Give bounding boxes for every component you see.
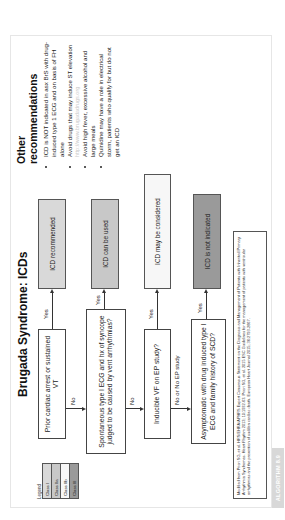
recommendations-list: ICD is NOT indicated in asx BrS with dru… — [42, 39, 120, 164]
citation: Modified from Priori SG, et al. HRS/EHRA… — [233, 231, 267, 499]
connector-yes-1 — [52, 293, 53, 329]
arrow-down-icon — [140, 408, 144, 412]
legend-class-iib: Class IIb — [61, 463, 70, 499]
decision-prior-arrest: Prior cardiac arrest or sustained VT — [38, 329, 66, 439]
decision-inducible-vf: Inducible VF on EP study? — [144, 329, 171, 439]
algorithm-figure: Brugada Syndrome: ICDs Legend Class I Cl… — [10, 35, 272, 508]
label-yes-3: Yes — [148, 309, 154, 319]
recommendation-item: Quinidine may have a role in electrical … — [97, 39, 121, 157]
legend: Legend Class I Class IIa Class IIb Class… — [37, 463, 79, 499]
arrow-right-icon — [102, 289, 106, 293]
figure-title: Brugada Syndrome: ICDs — [16, 252, 30, 397]
watermark-link[interactable]: http://www.brugadadrugs.org — [74, 39, 81, 157]
label-yes-4: Yes — [197, 303, 203, 313]
label-no-2: No — [129, 397, 135, 405]
connector-no-2 — [126, 408, 140, 409]
arrow-down-icon — [82, 408, 86, 412]
connector-no-1 — [66, 408, 82, 409]
recommendation-item: ICD is NOT indicated in asx BrS with dru… — [42, 39, 66, 157]
legend-class-iii: Class III — [70, 463, 79, 499]
arrow-right-icon — [204, 289, 208, 293]
label-yes-2: Yes — [95, 295, 101, 305]
algorithm-tag-label: ALGORITHM 8.9 — [275, 455, 281, 501]
legend-class-i: Class I — [42, 463, 52, 499]
connector-yes-3 — [157, 293, 158, 329]
label-no-or-no-ep: No or No EP study — [174, 355, 180, 405]
other-recommendations: Other recommendations ICD is NOT indicat… — [16, 39, 121, 164]
arrow-down-icon — [187, 408, 191, 412]
outcome-icd-recommended: ICD recommended — [38, 199, 66, 289]
recommendations-title-2: recommendations — [28, 39, 40, 164]
outcome-icd-can-be-used: ICD can be used — [91, 199, 119, 289]
recommendation-item: Avoid high fever, excessive alcohol and … — [81, 39, 97, 157]
decision-asymptomatic: Asymptomatic with drug induced type I EC… — [191, 319, 226, 444]
legend-class-iia: Class IIa — [52, 463, 61, 499]
outcome-icd-may-be-considered: ICD may be considered — [144, 174, 171, 289]
decision-spontaneous-type1: Spontaneous type I ECG and hx of syncope… — [86, 309, 126, 454]
outcome-icd-not-indicated: ICD is not indicated — [193, 194, 221, 289]
connector-yes-4 — [206, 293, 207, 319]
connector-no-3 — [171, 408, 187, 409]
arrow-right-icon — [155, 289, 159, 293]
label-no-1: No — [70, 397, 76, 405]
connector-yes-2 — [104, 293, 105, 309]
label-yes-1: Yes — [43, 309, 49, 319]
arrow-right-icon — [50, 289, 54, 293]
recommendations-title-1: Other — [16, 39, 28, 164]
recommendation-item: Avoid drugs that may induce ST elevation — [66, 39, 74, 157]
algorithm-tag: ALGORITHM 8.9 — [272, 448, 284, 508]
